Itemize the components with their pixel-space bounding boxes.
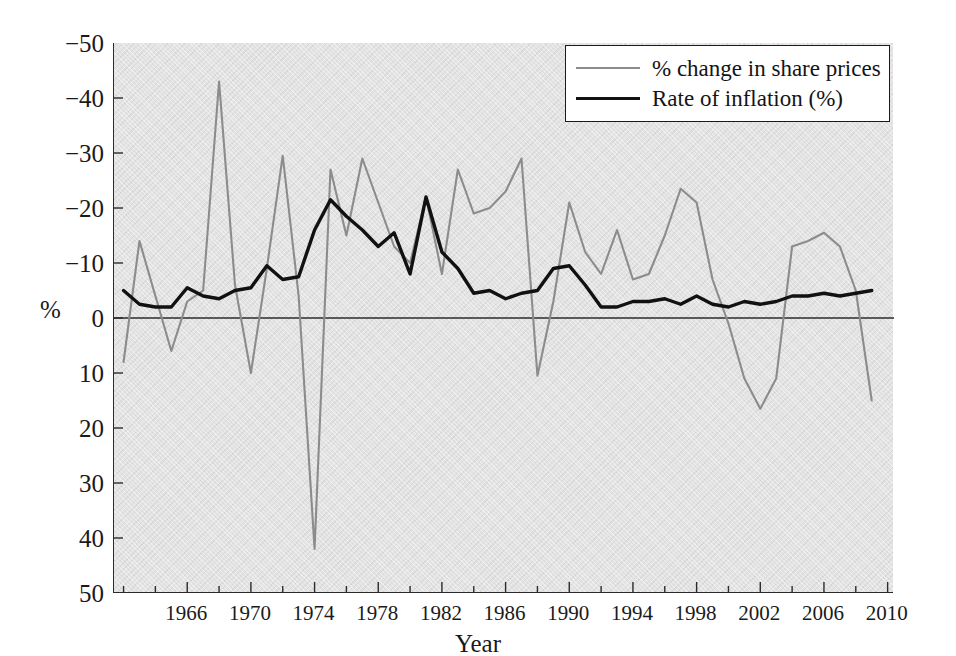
x-tick-label: 1990 — [547, 601, 589, 626]
x-tick-label: 1970 — [229, 601, 271, 626]
x-tick-label: 1986 — [484, 601, 526, 626]
y-tick-label: −50 — [46, 31, 104, 56]
plot-area — [113, 43, 893, 593]
y-tick-label: −30 — [46, 141, 104, 166]
y-axis-tick-labels: 50403020100−10−20−30−40−50 — [40, 0, 104, 656]
y-tick-label: 0 — [46, 306, 104, 331]
y-tick-label: −10 — [46, 251, 104, 276]
x-tick-label: 1982 — [420, 601, 462, 626]
x-tick-label: 2006 — [802, 601, 844, 626]
series-line-share-prices — [124, 82, 872, 550]
chart-lines — [114, 43, 894, 593]
y-tick-label: −40 — [46, 86, 104, 111]
x-tick-label: 2010 — [866, 601, 908, 626]
x-tick-label: 1994 — [611, 601, 653, 626]
legend-item-inflation: Rate of inflation (%) — [576, 83, 879, 113]
x-tick-label: 1998 — [675, 601, 717, 626]
y-tick-label: −20 — [46, 196, 104, 221]
x-axis-title: Year — [0, 630, 956, 656]
legend-swatch-inflation-icon — [576, 97, 640, 100]
x-axis-tick-labels: 1966197019741978198219861990199419982002… — [0, 601, 956, 633]
x-tick-label: 1966 — [165, 601, 207, 626]
chart-figure: % 50403020100−10−20−30−40−50 19661970197… — [0, 0, 956, 656]
x-tick-label: 2002 — [738, 601, 780, 626]
y-tick-label: 40 — [46, 526, 104, 551]
x-tick-label: 1978 — [356, 601, 398, 626]
y-tick-label: 30 — [46, 471, 104, 496]
y-tick-label: 20 — [46, 416, 104, 441]
legend-swatch-share-prices-icon — [576, 67, 640, 69]
x-tick-label: 1974 — [293, 601, 335, 626]
series-line-inflation — [124, 197, 872, 307]
legend-label-share-prices: % change in share prices — [652, 57, 881, 80]
legend-label-inflation: Rate of inflation (%) — [652, 87, 843, 110]
legend-item-share-prices: % change in share prices — [576, 53, 879, 83]
y-tick-label: 10 — [46, 361, 104, 386]
chart-legend: % change in share prices Rate of inflati… — [565, 45, 890, 122]
